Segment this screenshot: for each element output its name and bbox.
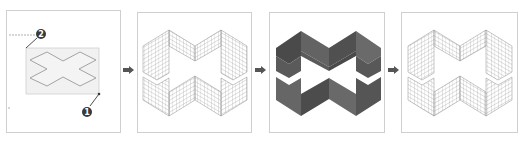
wireframe-result-canvas [402, 13, 519, 134]
shaded-canvas [270, 13, 386, 134]
callout-1-text: 1 [84, 108, 90, 117]
wireframe-result-shape [408, 30, 512, 116]
panel-shaded [269, 12, 385, 133]
panel-wireframe-result [401, 12, 518, 133]
arrow-right-icon [388, 66, 400, 74]
callout-1-badge: 1 [82, 107, 92, 117]
wireframe-shape [143, 30, 247, 116]
sketch-canvas: 2 1 [7, 11, 122, 134]
arrow-right-icon [255, 66, 267, 74]
shaded-shape [276, 31, 381, 116]
wireframe-canvas [138, 13, 253, 134]
callout-2-badge: 2 [36, 29, 46, 39]
callout-2-text: 2 [38, 30, 44, 39]
panel-sketch: 2 1 [6, 10, 121, 133]
panel-wireframe [137, 12, 252, 133]
arrow-right-icon [123, 66, 135, 74]
